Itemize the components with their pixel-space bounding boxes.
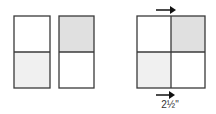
two-patch-unit-2 <box>59 16 94 88</box>
quilt-block-diagram <box>0 0 216 114</box>
measurement-label: 2½" <box>150 99 190 110</box>
patch-bottom-right <box>171 52 205 88</box>
patch-top-left <box>137 16 171 52</box>
four-patch-block <box>137 16 205 88</box>
arrow-right-icon <box>156 91 175 99</box>
two-patch-unit-1 <box>14 16 50 88</box>
arrow-right-icon <box>156 6 176 14</box>
patch-bottom-light <box>14 52 50 88</box>
patch-top-right <box>171 16 205 52</box>
patch-top-shaded <box>59 16 94 52</box>
patch-bottom-left <box>137 52 171 88</box>
patch-top-white <box>14 16 50 52</box>
patch-bottom-white <box>59 52 94 88</box>
